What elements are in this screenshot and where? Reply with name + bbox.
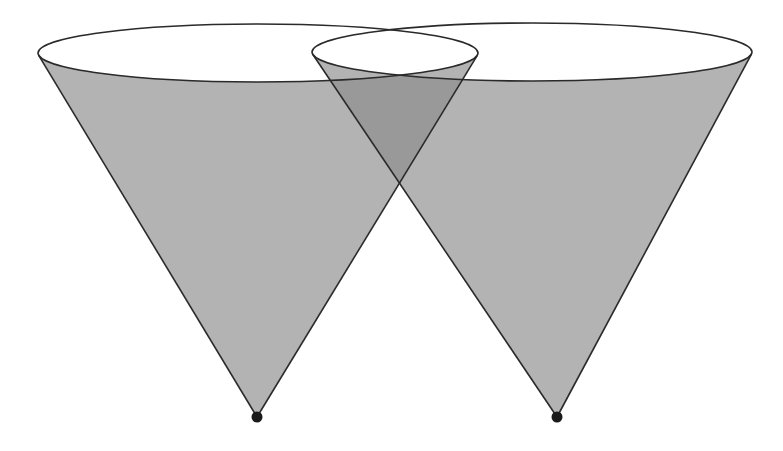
diagram-canvas — [0, 0, 783, 451]
cone-apexes — [252, 412, 563, 423]
light-cones-diagram — [0, 0, 783, 451]
right-cone-top-ellipse — [312, 23, 752, 81]
cone-top-ellipses — [38, 23, 752, 82]
right-cone-apex-point — [552, 412, 563, 423]
left-cone-apex-point — [252, 412, 263, 423]
left-cone-top-ellipse — [38, 24, 478, 82]
